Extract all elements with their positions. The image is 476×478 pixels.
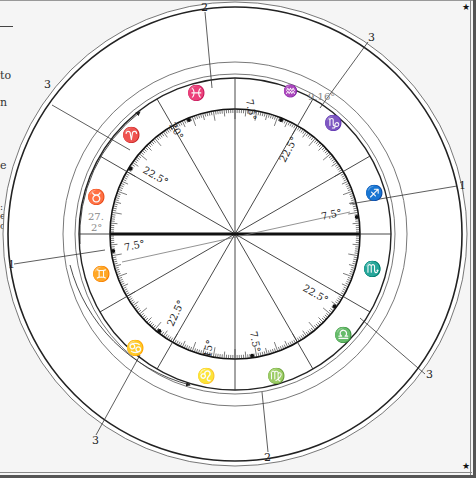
taurus-degree-label-line2: 2° [91,222,102,233]
callout-label-3-top-left: 3 [44,78,51,91]
cancer-icon: ♋ [126,339,145,357]
taurus-degree-label-line1: 27. [88,211,104,222]
astrological-chart: 2 3 3 1 1 3 3 2 ♓ ♒ ♑ ♐ ♏ ♎ ♍ ♌ ♋ ♊ ♉ ♈ … [0,0,476,478]
gemini-icon: ♊ [92,265,111,283]
scorpio-icon: ♏ [363,260,382,278]
sagittarius-icon: ♐ [365,184,384,202]
aquarius-icon: ♒ [283,84,298,98]
callout-label-3-top-right: 3 [368,31,375,44]
capricorn-icon: ♑ [324,114,343,132]
aquarius-degree-label: 9.16° [308,91,335,102]
libra-icon: ♎ [334,326,353,344]
virgo-icon: ♍ [267,367,286,385]
pisces-icon: ♓ [187,84,206,102]
aries-icon: ♈ [122,126,141,144]
callout-label-3-bottom-left: 3 [92,434,99,447]
taurus-icon: ♉ [87,188,106,206]
callout-label-2-bottom: 2 [264,451,271,464]
callout-label-2-top: 2 [201,1,208,14]
leo-icon: ♌ [197,367,216,385]
callout-label-3-bottom-right: 3 [426,368,433,381]
callout-label-1-right: 1 [459,179,466,192]
callout-label-1-left: 1 [8,258,15,271]
